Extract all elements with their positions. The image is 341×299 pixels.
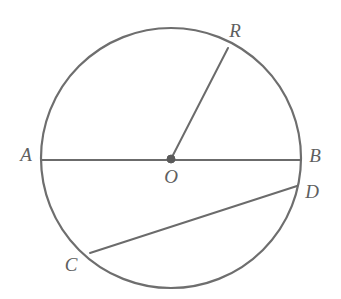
center-point-dot bbox=[167, 155, 175, 163]
segment-chord-cd bbox=[90, 186, 297, 253]
segment-radius-or bbox=[171, 48, 228, 159]
label-center-o: O bbox=[164, 166, 178, 187]
label-point-b: B bbox=[309, 145, 321, 166]
label-point-d: D bbox=[304, 181, 319, 202]
geometry-diagram: A B R C D O bbox=[0, 0, 341, 299]
label-point-c: C bbox=[65, 254, 78, 275]
label-point-a: A bbox=[18, 144, 32, 165]
circle-diagram-canvas: A B R C D O bbox=[0, 0, 341, 299]
label-point-r: R bbox=[228, 20, 241, 41]
